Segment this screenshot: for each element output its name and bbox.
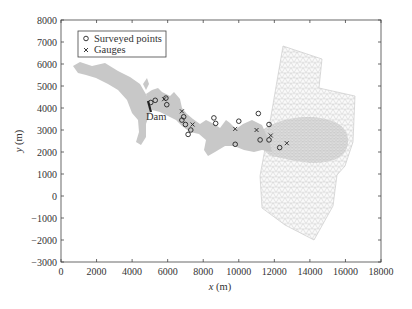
x-tick-label: 10000 <box>226 266 251 277</box>
surveyed-point <box>212 116 217 121</box>
y-tick-label: −2000 <box>31 235 57 246</box>
x-tick-label: 16000 <box>333 266 358 277</box>
y-tick-label: 4000 <box>37 103 57 114</box>
chart: 0200040006000800010000120001400016000180… <box>0 0 412 309</box>
dam-label: Dam <box>146 111 166 122</box>
surveyed-point <box>213 121 218 126</box>
x-tick-label: 4000 <box>122 266 142 277</box>
legend: Surveyed points Gauges <box>78 31 166 57</box>
computational-mesh <box>260 46 355 240</box>
y-tick-label: 6000 <box>37 59 57 70</box>
x-tick-label: 0 <box>59 266 64 277</box>
x-tick-label: 12000 <box>262 266 287 277</box>
legend-label-gauges: Gauges <box>94 44 126 55</box>
x-axis-label: x (m) <box>208 281 232 293</box>
x-tick-label: 18000 <box>369 266 394 277</box>
y-tick-label: 0 <box>52 191 57 202</box>
x-tick-label: 8000 <box>193 266 213 277</box>
y-tick-label: 7000 <box>37 37 57 48</box>
y-tick-label: 8000 <box>37 15 57 26</box>
surveyed-point <box>186 132 191 137</box>
y-tick-label: 3000 <box>37 125 57 136</box>
reservoir-domain <box>73 62 272 156</box>
y-axis-label: y (m) <box>13 129 25 153</box>
y-tick-label: 1000 <box>37 169 57 180</box>
y-tick-label: 2000 <box>37 147 57 158</box>
x-tick-label: 2000 <box>87 266 107 277</box>
x-tick-label: 6000 <box>158 266 178 277</box>
y-tick-label: −1000 <box>31 213 57 224</box>
y-tick-label: 5000 <box>37 81 57 92</box>
x-tick-label: 14000 <box>297 266 322 277</box>
legend-label-surveyed: Surveyed points <box>94 33 162 44</box>
surveyed-point <box>256 111 261 116</box>
y-tick-label: −3000 <box>31 257 57 268</box>
surveyed-point <box>236 119 241 124</box>
